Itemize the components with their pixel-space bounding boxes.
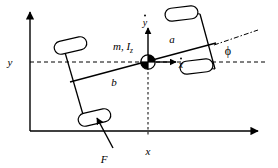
front-distance-label: a (169, 33, 175, 45)
force-label: F (100, 153, 108, 165)
mass-inertia-main: m, I (113, 40, 131, 52)
global-x-axis-label: x (145, 145, 151, 157)
velocity-y-overdot (144, 15, 146, 17)
velocity-y-label-group: y (142, 15, 148, 28)
velocity-x-overdot (180, 58, 182, 60)
velocity-x-label: x (178, 59, 184, 70)
diagram-canvas: y x m, Iz a b y x ϕ F (0, 0, 278, 168)
diagram-labels: y x m, Iz a b y x ϕ F (7, 15, 232, 165)
mass-inertia-subscript: z (129, 46, 133, 55)
rear-axle-line (64, 49, 84, 118)
mass-inertia-label: m, Iz (113, 40, 133, 55)
yaw-angle-label: ϕ (225, 44, 231, 58)
rear-distance-label: b (111, 76, 117, 88)
front-left-wheel (164, 5, 198, 22)
center-of-gravity-marker (141, 55, 155, 69)
heading-dash-dot-line (214, 30, 258, 45)
global-y-axis-label: y (7, 56, 13, 68)
rear-left-wheel (53, 35, 88, 55)
global-axes (30, 12, 258, 131)
velocity-x-label-group: x (178, 58, 184, 70)
vehicle-dynamics-diagram: y x m, Iz a b y x ϕ F (0, 0, 278, 168)
velocity-y-label: y (142, 17, 148, 28)
rear-axle-group (53, 35, 112, 127)
front-right-wheel (179, 58, 213, 75)
force-arrow (97, 118, 113, 148)
